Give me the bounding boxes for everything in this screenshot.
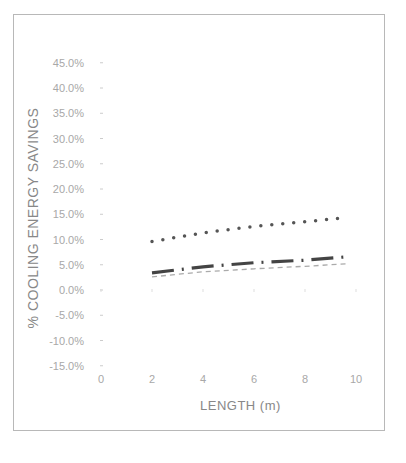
x-tick-label: 0 (98, 373, 104, 385)
x-tick-label: 8 (302, 373, 308, 385)
y-tick-label: 5.0% (59, 259, 84, 271)
x-tick-label: 4 (200, 373, 206, 385)
y-tick-label: 40.0% (53, 82, 84, 94)
y-tick-label: 30.0% (53, 133, 84, 145)
y-tick-label: -10.0% (49, 335, 84, 347)
series-dash-dot (152, 257, 348, 273)
x-tick-label: 6 (251, 373, 257, 385)
series-dashed (152, 264, 348, 277)
y-tick-label: 20.0% (53, 183, 84, 195)
y-tick-label: -5.0% (55, 309, 84, 321)
y-tick-label: 35.0% (53, 107, 84, 119)
plot-area: 45.0%40.0%35.0%30.0%25.0%20.0%15.0%10.0%… (0, 0, 406, 463)
x-tick-label: 2 (149, 373, 155, 385)
y-tick-label: 45.0% (53, 57, 84, 69)
y-tick-label: 15.0% (53, 208, 84, 220)
y-tick-label: 0.0% (59, 284, 84, 296)
x-tick-label: 10 (350, 373, 362, 385)
y-tick-label: 10.0% (53, 234, 84, 246)
y-tick-label: -15.0% (49, 360, 84, 372)
y-tick-label: 25.0% (53, 158, 84, 170)
series-dotted (152, 217, 348, 241)
